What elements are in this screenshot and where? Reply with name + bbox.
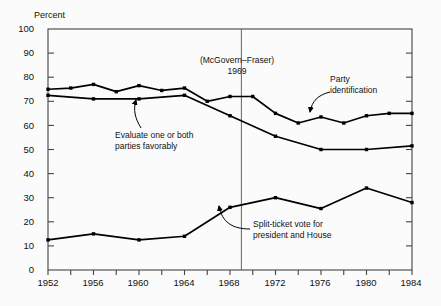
y-tick-label: 70 [8,96,34,106]
data-point-marker [183,94,186,97]
annotation-mcgovern-fraser-line2: 1969 [186,66,288,77]
series-line-1 [48,95,412,149]
data-point-marker [46,88,49,91]
annotation-party-identification: Party identification [330,74,377,95]
data-point-marker [228,114,231,117]
y-tick-label: 50 [8,145,34,155]
data-point-marker [228,206,231,209]
data-point-marker [92,83,95,86]
data-point-marker [137,97,140,100]
data-point-marker [297,121,300,124]
y-tick-label: 0 [8,265,34,275]
data-point-marker [183,235,186,238]
annotation-mcgovern-fraser-line1: (McGovern–Fraser) [186,55,288,66]
data-point-marker [274,112,277,115]
y-tick-label: 80 [8,72,34,82]
data-point-marker [137,238,140,241]
x-tick-label: 1952 [28,278,68,288]
data-point-marker [115,90,118,93]
data-point-marker [251,95,254,98]
annotation-evaluate-parties-line1: Evaluate one or both [115,130,193,141]
data-point-marker [410,144,413,147]
y-tick-label: 20 [8,217,34,227]
chart-page: Percent 100 90 80 70 60 50 40 30 20 10 0… [0,0,441,306]
data-point-marker [46,94,49,97]
data-point-marker [319,115,322,118]
data-point-marker [319,148,322,151]
data-point-marker [365,114,368,117]
data-point-marker [365,148,368,151]
annotation-split-ticket-line1: Split-ticket vote for [253,219,331,230]
leader-split-ticket [219,206,250,229]
chart-canvas [0,0,441,306]
series-line-2 [48,188,412,240]
x-tick-label: 1976 [300,278,340,288]
leader-party-identification [310,92,330,112]
x-tick-label: 1968 [209,278,249,288]
x-tick-label: 1964 [164,278,204,288]
annotation-party-identification-line2: identification [330,85,377,96]
data-point-marker [183,86,186,89]
data-point-marker [319,207,322,210]
data-point-marker [342,121,345,124]
data-point-marker [410,201,413,204]
y-tick-label: 40 [8,169,34,179]
y-tick-label: 100 [8,24,34,34]
data-point-marker [274,135,277,138]
y-tick-label: 60 [8,121,34,131]
leader-evaluate-parties [135,100,141,128]
annotation-split-ticket: Split-ticket vote for president and Hous… [253,219,331,240]
annotation-party-identification-line1: Party [330,74,377,85]
x-tick-label: 1956 [73,278,113,288]
y-tick-label: 10 [8,241,34,251]
y-tick-label: 30 [8,193,34,203]
data-point-marker [388,112,391,115]
data-point-marker [92,97,95,100]
data-point-marker [410,112,413,115]
annotation-split-ticket-line2: president and House [253,230,331,241]
x-tick-label: 1972 [255,278,295,288]
data-point-marker [69,86,72,89]
data-point-marker [92,232,95,235]
y-tick-label: 90 [8,48,34,58]
annotation-evaluate-parties: Evaluate one or both parties favorably [115,130,193,151]
annotation-mcgovern-fraser: (McGovern–Fraser) 1969 [186,55,288,76]
data-point-marker [228,95,231,98]
annotation-evaluate-parties-line2: parties favorably [115,141,193,152]
data-point-marker [365,186,368,189]
x-tick-label: 1984 [391,278,431,288]
data-point-marker [137,84,140,87]
data-point-marker [206,100,209,103]
data-point-marker [160,89,163,92]
data-point-marker [274,196,277,199]
x-tick-label: 1980 [346,278,386,288]
x-tick-label: 1960 [118,278,158,288]
data-point-marker [46,238,49,241]
